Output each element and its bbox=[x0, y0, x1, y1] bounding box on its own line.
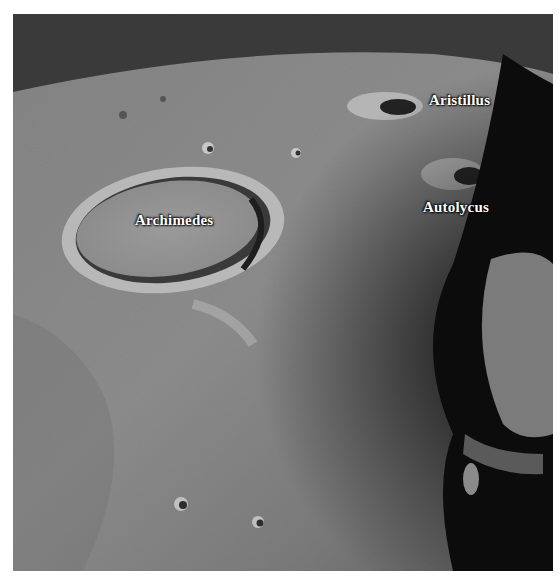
lunar-photo: Archimedes Aristillus Autolycus bbox=[13, 14, 553, 571]
crater-label-archimedes: Archimedes bbox=[135, 212, 213, 229]
crater-label-autolycus: Autolycus bbox=[423, 199, 489, 216]
crater-label-aristillus: Aristillus bbox=[429, 92, 490, 109]
